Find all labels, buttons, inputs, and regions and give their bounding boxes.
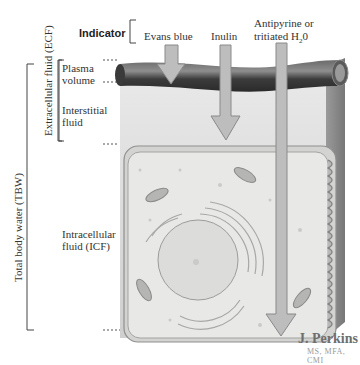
interstitial-label-line2: fluid <box>62 116 83 128</box>
interstitial-label-line1: Interstitial <box>62 104 107 116</box>
indicator-antipyrine-line2: tritiated H20 <box>254 30 308 47</box>
indicator-label: Indicator <box>79 27 125 39</box>
tbw-bracket <box>27 64 34 330</box>
icf-label-line2: fluid (ICF) <box>62 240 110 252</box>
indicator-antipyrine-line1: Antipyrine or <box>254 17 314 29</box>
icf-label-line1: Intracellular <box>62 228 116 240</box>
tbw-label: Total body water (TBW) <box>12 173 24 282</box>
artist-signature: J. Perkins <box>298 331 358 347</box>
ecf-label: Extracellular fluid (ECF) <box>42 25 54 136</box>
indicator-inulin: Inulin <box>211 30 237 42</box>
indicator-bracket <box>130 20 136 43</box>
indicator-evans-blue: Evans blue <box>144 30 193 42</box>
plasma-label-line1: Plasma <box>62 62 94 74</box>
plasma-label-line2: volume <box>62 74 95 86</box>
cell <box>124 146 336 342</box>
artist-credentials: MS, MFA, CMI <box>307 347 360 365</box>
